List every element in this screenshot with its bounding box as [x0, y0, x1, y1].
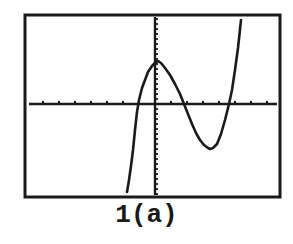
function-curve	[127, 20, 241, 192]
figure-caption: 1(a)	[0, 200, 293, 230]
x-axis	[29, 101, 277, 104]
y-axis	[155, 17, 158, 195]
plot-frame	[25, 15, 280, 197]
